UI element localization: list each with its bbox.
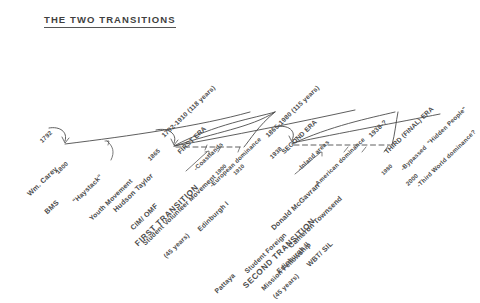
era-third-bullet-1: -Bypassed "Hidden People" — [399, 105, 468, 172]
era-third-bullet-2: -Third World dominance? — [415, 121, 480, 188]
leader-haystack-head — [105, 141, 109, 145]
era-third-name: THIRD (FINAL) ERA — [383, 88, 452, 155]
